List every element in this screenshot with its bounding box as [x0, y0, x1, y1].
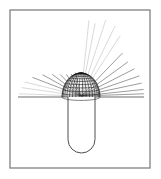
- figure-svg: [0, 0, 161, 179]
- capsule-body: [68, 97, 95, 153]
- figure-container: [0, 0, 161, 179]
